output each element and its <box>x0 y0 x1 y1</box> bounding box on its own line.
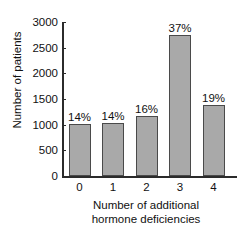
y-tick-label: 500 <box>26 145 58 155</box>
x-axis-label: Number of additionalhormone deficiencies <box>46 199 246 226</box>
y-tick-label: 1000 <box>26 120 58 130</box>
bar[interactable]: 14% <box>102 123 124 176</box>
y-tick-label: 1500 <box>26 94 58 104</box>
bar[interactable]: 37% <box>169 35 191 176</box>
bar-value-label: 14% <box>101 110 124 122</box>
x-axis-line <box>62 176 237 178</box>
y-tick-label: 2500 <box>26 43 58 53</box>
y-tick-label: 2000 <box>26 68 58 78</box>
bar[interactable]: 14% <box>69 124 91 176</box>
bar-value-label: 14% <box>68 111 91 123</box>
x-axis-label-line-2: hormone deficiencies <box>46 213 246 227</box>
plot-area: 14%14%16%37%19% <box>62 22 237 176</box>
bar-value-label: 19% <box>202 92 225 104</box>
x-tick-label: 3 <box>165 181 195 194</box>
x-tick-label: 2 <box>132 181 162 194</box>
y-tick-label: 0 <box>26 171 58 181</box>
bar-chart-figure: Number of patients 300025002000150010005… <box>0 0 251 235</box>
y-axis-label: Number of patients <box>8 0 26 160</box>
y-tick-label: 3000 <box>26 17 58 27</box>
bar[interactable]: 16% <box>136 116 158 176</box>
x-axis-label-line-1: Number of additional <box>46 199 246 213</box>
bar-value-label: 16% <box>135 103 158 115</box>
x-tick-label: 0 <box>65 181 95 194</box>
bar[interactable]: 19% <box>203 105 225 176</box>
x-tick-label: 1 <box>98 181 128 194</box>
x-tick-label: 4 <box>199 181 229 194</box>
bar-value-label: 37% <box>168 22 191 34</box>
